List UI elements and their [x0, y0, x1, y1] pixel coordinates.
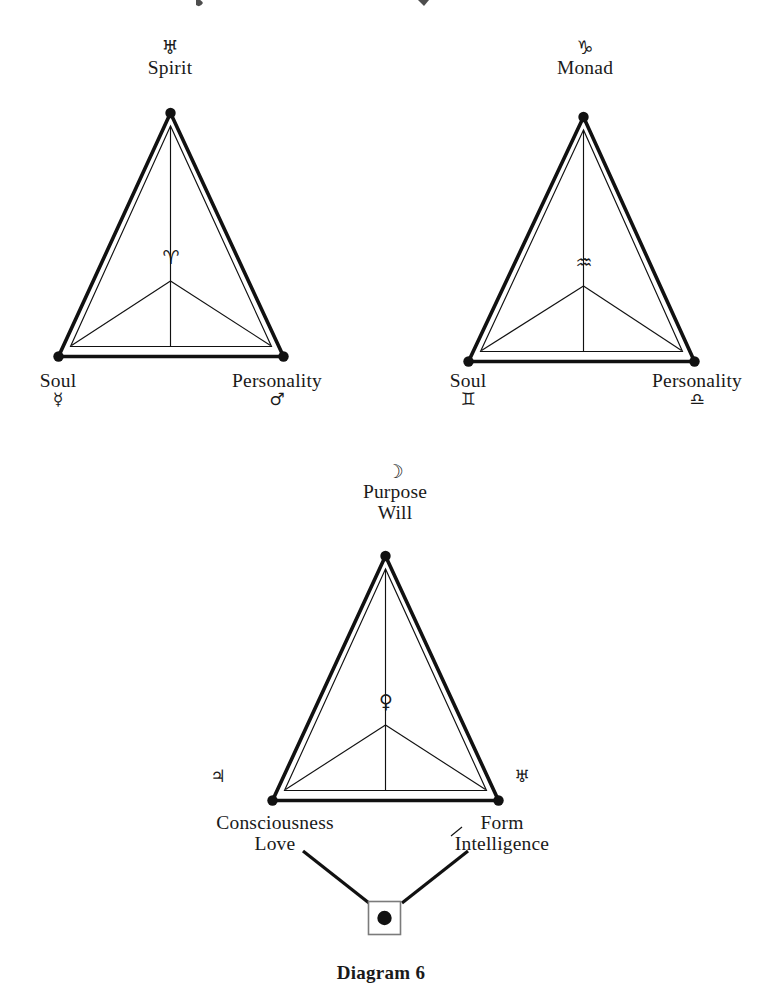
- triangle1-center-label: ♈: [150, 248, 192, 267]
- diagram-caption: Diagram 6: [0, 962, 762, 984]
- triangle3-bottom-right-label: Form Intelligence: [412, 812, 592, 854]
- triangle3-jupiter-label: ♃: [198, 768, 238, 785]
- triangle2-bottom-right-label: Personality ♎: [622, 370, 762, 408]
- triangle2-soul-text: Soul: [418, 370, 518, 391]
- capricorn-icon: ♑: [525, 38, 645, 57]
- uranus-icon: ♅: [110, 38, 230, 57]
- bottom-left-node: [53, 351, 63, 361]
- triangle3-apex-label: ☽ Purpose Will: [320, 462, 470, 523]
- left-diagonal-line: [482, 286, 584, 351]
- libra-icon: ♎: [622, 391, 762, 408]
- aries-icon: ♈: [150, 248, 192, 267]
- inner-triangle-stroke: [481, 130, 683, 352]
- bottom-left-node: [463, 356, 473, 366]
- uranus-icon: ♅: [502, 768, 542, 785]
- triangle2-center-label: ♒: [563, 253, 605, 272]
- triangle1-bottom-right-label: Personality ♂: [202, 370, 352, 408]
- triangle1-apex-text: Spirit: [110, 57, 230, 78]
- bottom-right-node: [493, 795, 503, 805]
- square-node-center-dot: [377, 911, 391, 925]
- right-diagonal-line: [584, 286, 682, 351]
- page-top-crop-marks: [196, 0, 429, 6]
- apex-node: [578, 112, 588, 122]
- triangle1-soul-text: Soul: [8, 370, 108, 391]
- triangle-purpose-consciousness-form: [267, 551, 503, 806]
- triangle2-bottom-left-label: Soul ♊: [418, 370, 518, 408]
- apex-node: [380, 551, 390, 561]
- triangle-spirit-soul-personality: [53, 108, 288, 362]
- apex-node: [165, 108, 175, 118]
- bottom-right-node: [278, 351, 288, 361]
- gemini-icon: ♊: [418, 391, 518, 408]
- left-diagonal-line: [286, 725, 386, 790]
- venus-icon: ♀: [365, 692, 407, 711]
- bottom-right-node: [689, 356, 699, 366]
- triangle1-apex-label: ♅ Spirit: [110, 38, 230, 78]
- bottom-left-node: [267, 795, 277, 805]
- triangle3-center-label: ♀: [365, 692, 407, 711]
- triangle3-apex-text-line1: Purpose: [320, 481, 470, 502]
- left-connector-leg: [303, 851, 369, 903]
- intelligence-text: Intelligence: [412, 833, 592, 854]
- aquarius-icon: ♒: [563, 253, 605, 272]
- mercury-icon: ☿: [8, 391, 108, 408]
- triangle3-apex-text-line2: Will: [320, 502, 470, 523]
- triangle1-bottom-left-label: Soul ☿: [8, 370, 108, 408]
- left-diagonal-line: [72, 281, 171, 346]
- outer-triangle-stroke: [469, 117, 695, 362]
- right-diagonal-line: [386, 725, 486, 790]
- consciousness-text: Consciousness: [185, 812, 365, 833]
- triangle3-bottom-left-label: Consciousness Love: [185, 812, 365, 854]
- triangle1-personality-text: Personality: [202, 370, 352, 391]
- diagram-canvas: .outer { fill: none; stroke: #111; strok…: [0, 0, 762, 1004]
- love-text: Love: [185, 833, 365, 854]
- triangle2-apex-label: ♑ Monad: [525, 38, 645, 78]
- triangle2-personality-text: Personality: [622, 370, 762, 391]
- jupiter-icon: ♃: [198, 768, 238, 785]
- triangle-monad-soul-personality: [463, 112, 699, 367]
- right-diagonal-line: [171, 281, 271, 346]
- form-text: Form: [412, 812, 592, 833]
- right-connector-leg: [402, 851, 468, 903]
- triangle3-uranus-label: ♅: [502, 768, 542, 785]
- triangle2-apex-text: Monad: [525, 57, 645, 78]
- moon-icon: ☽: [320, 462, 470, 481]
- mars-icon: ♂: [202, 391, 352, 408]
